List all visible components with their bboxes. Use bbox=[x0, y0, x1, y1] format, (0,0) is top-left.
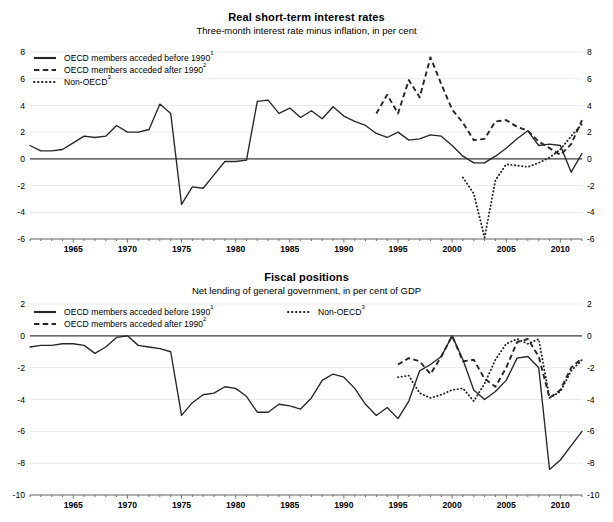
x-axis-tick-label: 1990 bbox=[334, 244, 353, 254]
y-axis-tick-label-left: 6 bbox=[20, 74, 25, 84]
y-axis-tick-label-right: 2 bbox=[587, 127, 592, 137]
x-axis-tick-label: 1985 bbox=[280, 500, 299, 510]
series-line-dotted bbox=[463, 124, 582, 238]
y-axis-tick-label-left: -2 bbox=[17, 363, 25, 373]
gridlines-group bbox=[30, 52, 582, 239]
x-axis-tick-label: 2010 bbox=[551, 500, 570, 510]
x-axis-tick-label: 2005 bbox=[497, 500, 516, 510]
x-axis-tick-label: 1965 bbox=[64, 244, 83, 254]
y-axis-tick-label-right: -8 bbox=[587, 458, 595, 468]
legend-label-oecd-after-1990: OECD members acceded after 19902 bbox=[64, 62, 207, 75]
legend-label-oecd-before-1990: OECD members acceded before 19901 bbox=[64, 304, 214, 317]
plot-area-fiscal-positions: -10-10-8-8-6-6-4-4-2-2002219651970197519… bbox=[0, 262, 613, 522]
x-axis-tick-label: 2005 bbox=[497, 244, 516, 254]
y-axis-tick-label-left: -2 bbox=[17, 181, 25, 191]
y-axis-tick-label-right: -4 bbox=[587, 207, 595, 217]
series-line-solid bbox=[30, 336, 582, 470]
y-axis-tick-label-right: -10 bbox=[587, 490, 600, 500]
y-axis-tick-label-left: 8 bbox=[20, 47, 25, 57]
y-axis-tick-label-left: 2 bbox=[20, 299, 25, 309]
y-axis-tick-label-right: 0 bbox=[587, 331, 592, 341]
y-axis-tick-label-left: -6 bbox=[17, 426, 25, 436]
x-axis-tick-label: 1980 bbox=[226, 500, 245, 510]
y-axis-tick-label-left: 0 bbox=[20, 154, 25, 164]
series-line-dotted bbox=[398, 339, 582, 401]
series-group bbox=[30, 336, 582, 470]
y-axis-tick-label-left: -6 bbox=[17, 234, 25, 244]
x-axis-tick-label: 1970 bbox=[118, 500, 137, 510]
y-axis-tick-label-left: 2 bbox=[20, 127, 25, 137]
legend-label-non-oecd: Non-OECD3 bbox=[318, 304, 365, 317]
x-axis-labels-group: 1965197019751980198519901995200020052010 bbox=[64, 244, 570, 254]
x-axis-tick-label: 1985 bbox=[280, 244, 299, 254]
x-axis-tick-label: 1975 bbox=[172, 244, 191, 254]
series-group bbox=[30, 57, 582, 237]
y-axis-tick-label-right: -2 bbox=[587, 181, 595, 191]
series-line-solid bbox=[30, 100, 582, 204]
x-axis-tick-label: 2000 bbox=[443, 500, 462, 510]
y-axis-tick-label-right: 6 bbox=[587, 74, 592, 84]
y-axis-tick-label-right: 0 bbox=[587, 154, 592, 164]
chart-panel-fiscal-positions: Fiscal positions Net lending of general … bbox=[0, 262, 613, 522]
chart-panel-interest-rates: Real short-term interest rates Three-mon… bbox=[0, 0, 613, 262]
y-axis-tick-label-right: 2 bbox=[587, 299, 592, 309]
x-axis-tick-label: 1980 bbox=[226, 244, 245, 254]
series-line-dashed bbox=[376, 57, 582, 155]
plot-area-interest-rates: -6-6-4-4-2-20022446688196519701975198019… bbox=[0, 0, 613, 262]
x-axis-tick-label: 1990 bbox=[334, 500, 353, 510]
y-axis-tick-label-right: 8 bbox=[587, 47, 592, 57]
x-axis-tick-label: 2000 bbox=[443, 244, 462, 254]
x-axis-tick-label: 1965 bbox=[64, 500, 83, 510]
y-axis-tick-label-left: -4 bbox=[17, 395, 25, 405]
legend-label-oecd-after-1990: OECD members acceded after 19902 bbox=[64, 316, 207, 329]
x-axis-labels-group: 1965197019751980198519901995200020052010 bbox=[64, 500, 570, 510]
y-axis-tick-label-right: 4 bbox=[587, 101, 592, 111]
y-axis-tick-label-left: 4 bbox=[20, 101, 25, 111]
y-axis-tick-label-right: -6 bbox=[587, 234, 595, 244]
x-axis-tick-label: 1970 bbox=[118, 244, 137, 254]
x-axis-ticks-group bbox=[30, 239, 582, 243]
x-axis-tick-label: 1975 bbox=[172, 500, 191, 510]
y-axis-tick-label-left: 0 bbox=[20, 331, 25, 341]
x-axis-ticks-group bbox=[30, 495, 582, 499]
y-axis-tick-label-right: -4 bbox=[587, 395, 595, 405]
y-axis-tick-label-left: -4 bbox=[17, 207, 25, 217]
x-axis-tick-label: 2010 bbox=[551, 244, 570, 254]
x-axis-tick-label: 1995 bbox=[388, 500, 407, 510]
x-axis-tick-label: 1995 bbox=[388, 244, 407, 254]
legend-label-non-oecd: Non-OECD3 bbox=[64, 74, 111, 87]
y-axis-tick-label-right: -2 bbox=[587, 363, 595, 373]
y-axis-tick-label-left: -8 bbox=[17, 458, 25, 468]
gridlines-group bbox=[30, 304, 582, 495]
y-axis-tick-label-right: -6 bbox=[587, 426, 595, 436]
y-axis-tick-label-left: -10 bbox=[13, 490, 26, 500]
